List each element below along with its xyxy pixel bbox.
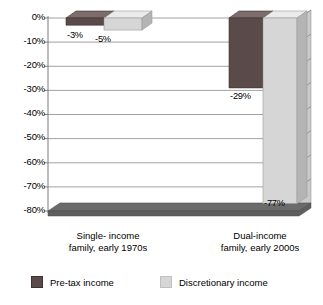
category-label-line2: family, early 1970s	[38, 242, 178, 254]
category-label-line1: Dual-income	[190, 230, 323, 242]
category-label-line1: Single- income	[38, 230, 178, 242]
legend-label: Discretionary income	[179, 277, 268, 288]
y-tick-label: -80%	[5, 205, 45, 215]
y-tick-label: -30%	[5, 84, 45, 94]
y-tick-label: -70%	[5, 181, 45, 191]
bar-g1-discretionary[interactable]	[104, 11, 152, 30]
bar-front-face	[229, 18, 263, 88]
data-label-g2-pretax: -29%	[230, 91, 251, 101]
category-label-single-income: Single- income family, early 1970s	[38, 230, 178, 253]
y-tick-label: -40%	[5, 108, 45, 118]
legend-item-pre-tax-income[interactable]: Pre-tax income	[31, 276, 114, 288]
legend-item-discretionary-income[interactable]: Discretionary income	[160, 276, 268, 288]
y-tick-label: -10%	[5, 36, 45, 46]
data-label-g1-discretionary: -5%	[95, 34, 111, 44]
bar-chart: 0% -10% -20% -30% -40% -50% -60% -70% -8…	[0, 0, 323, 305]
data-label-g2-discretionary: -77%	[264, 198, 285, 208]
y-tick-label: -60%	[5, 157, 45, 167]
data-label-g1-pretax: -3%	[67, 30, 83, 40]
y-axis-labels: 0% -10% -20% -30% -40% -50% -60% -70% -8…	[0, 0, 45, 230]
bar-front-face	[104, 18, 142, 30]
bar-front-face	[66, 18, 104, 25]
y-tick-label: 0%	[5, 12, 45, 22]
legend-swatch-discretionary-income	[160, 276, 172, 288]
category-label-dual-income: Dual-income family, early 2000s	[190, 230, 323, 253]
bar-g2-discretionary[interactable]	[263, 11, 307, 204]
legend-label: Pre-tax income	[50, 277, 114, 288]
chart-legend: Pre-tax income Discretionary income	[0, 276, 323, 296]
y-tick-label: -20%	[5, 60, 45, 70]
bar-front-face	[263, 18, 297, 204]
category-label-line2: family, early 2000s	[190, 242, 323, 254]
legend-swatch-pre-tax-income	[31, 276, 43, 288]
y-tick-label: -50%	[5, 132, 45, 142]
bar-side-face	[297, 11, 307, 204]
